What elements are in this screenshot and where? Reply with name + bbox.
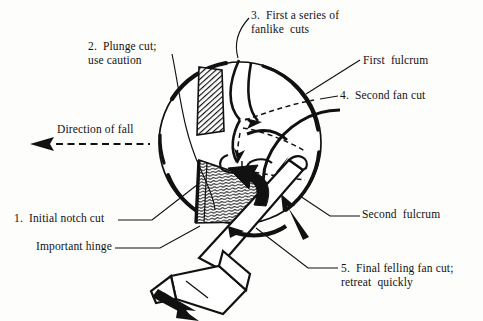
label-initial-notch-cut-text: 1. Initial notch cut	[14, 212, 104, 224]
label-final-felling-fan-cut: 5. Final felling fan cut;retreat quickly	[341, 261, 454, 289]
diagram-canvas: 3. First a series offanlike cuts 2. Plun…	[0, 0, 483, 321]
chainsaw-body	[151, 251, 250, 314]
label-important-hinge-text: Important hinge	[36, 240, 112, 252]
label-fanlike-cuts-line2: fanlike cuts	[251, 23, 309, 35]
label-fanlike-cuts: 3. First a series offanlike cuts	[251, 8, 339, 36]
label-plunge-cut: 2. Plunge cut;use caution	[88, 39, 157, 67]
label-direction-of-fall-text: Direction of fall	[57, 123, 134, 135]
label-direction-of-fall: Direction of fall	[57, 123, 134, 137]
leader-fanlike-cuts	[236, 18, 249, 58]
upper-notch-face	[197, 67, 224, 135]
leader-second-fulcrum	[300, 196, 360, 216]
label-second-fulcrum-text: Second fulcrum	[362, 208, 440, 220]
label-final-felling-line2: retreat quickly	[341, 276, 413, 288]
label-plunge-cut-line1: 2. Plunge cut;	[88, 40, 157, 52]
label-plunge-cut-line2: use caution	[88, 54, 142, 66]
direction-of-fall-arrow	[30, 137, 150, 151]
label-initial-notch-cut: 1. Initial notch cut	[14, 212, 104, 226]
label-final-felling-line1: 5. Final felling fan cut;	[341, 262, 454, 274]
label-first-fulcrum: First fulcrum	[363, 54, 428, 68]
label-second-fan-cut: 4. Second fan cut	[340, 89, 425, 103]
leader-second-fan-cut	[320, 96, 338, 99]
label-fanlike-cuts-line1: 3. First a series of	[251, 9, 339, 21]
leader-important-hinge	[115, 226, 200, 248]
label-second-fulcrum: Second fulcrum	[362, 208, 440, 222]
label-first-fulcrum-text: First fulcrum	[363, 54, 428, 66]
label-second-fan-cut-text: 4. Second fan cut	[340, 89, 425, 101]
label-important-hinge: Important hinge	[36, 240, 112, 254]
